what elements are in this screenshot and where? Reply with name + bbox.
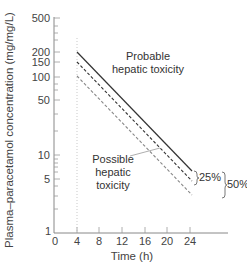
x-tick-label: 20	[161, 235, 173, 247]
x-tick-label: 24	[184, 235, 196, 247]
x-tick-label: 8	[96, 235, 102, 247]
x-axis-title: Time (h)	[111, 250, 154, 262]
possible-label: Possible	[92, 153, 134, 165]
treatment-line-50	[77, 76, 192, 195]
x-tick-label: 12	[116, 235, 128, 247]
probable-label: Probable	[126, 50, 170, 62]
y-tick-label: 50	[38, 94, 50, 106]
nomogram-chart: 500 200 150 100 50 10 5 1 0 4 8 12 16 20…	[0, 0, 247, 267]
y-tick-label: 500	[32, 12, 50, 24]
y-tick-label: 1	[45, 225, 51, 237]
possible-label: hepatic	[95, 166, 131, 178]
y-tick-label: 10	[38, 149, 50, 161]
pct50-label: 50%	[227, 178, 247, 190]
possible-pointer	[130, 148, 160, 156]
pct25-label: 25%	[199, 171, 221, 183]
probable-label: hepatic toxicity	[112, 63, 185, 75]
y-tick-label: 100	[32, 71, 50, 83]
y-ticks	[54, 18, 60, 209]
y-axis-title: Plasma–paracetamol concentration (mg/mg/…	[3, 12, 15, 248]
x-tick-label: 16	[139, 235, 151, 247]
x-ticks	[77, 227, 190, 233]
x-tick-label: 0	[52, 235, 58, 247]
x-tick-label: 4	[74, 235, 80, 247]
possible-label: toxicity	[96, 179, 130, 191]
y-tick-label: 150	[32, 56, 50, 68]
y-tick-label: 5	[44, 173, 50, 185]
